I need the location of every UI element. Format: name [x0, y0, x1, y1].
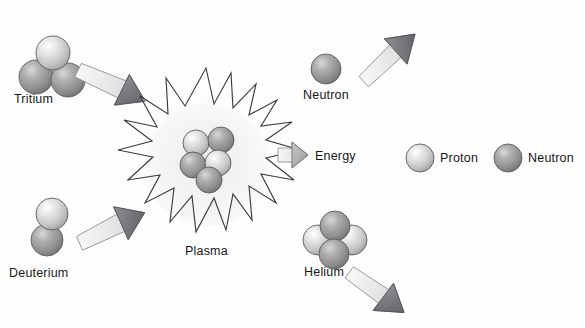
arrow-deuterium-to-plasma: [72, 196, 152, 258]
output-neutron: [311, 54, 341, 84]
label-plasma: Plasma: [185, 244, 228, 258]
diagram-canvas: [0, 0, 585, 328]
label-tritium: Tritium: [14, 92, 53, 106]
arrow-helium-out: [340, 258, 415, 326]
fusion-diagram: Tritium Deuterium Plasma Neutron Energy …: [0, 0, 585, 328]
arrow-neutron-out: [352, 21, 427, 93]
label-energy: Energy: [315, 149, 356, 163]
legend-label-neutron: Neutron: [528, 151, 574, 165]
label-deuterium: Deuterium: [9, 266, 68, 280]
helium-cluster: [303, 211, 367, 269]
plasma-burst: [118, 68, 300, 232]
legend-label-proton: Proton: [440, 151, 478, 165]
legend-neutron-icon: [494, 144, 522, 172]
legend-proton-icon: [406, 144, 434, 172]
label-neutron-output: Neutron: [303, 88, 349, 102]
tritium-cluster: [19, 36, 85, 97]
label-helium: Helium: [304, 265, 344, 279]
deuterium-cluster: [31, 198, 68, 256]
